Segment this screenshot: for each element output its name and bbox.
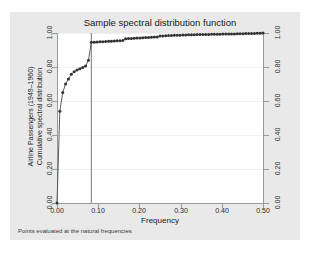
data-point-marker [56,202,59,205]
data-point-marker [96,41,99,44]
data-point-marker [204,33,207,36]
data-point-marker [253,32,256,35]
data-point-marker [161,34,164,37]
data-point-marker [110,40,113,43]
data-point-marker [104,40,107,43]
data-point-marker [58,110,61,113]
data-point-marker [207,33,210,36]
data-point-marker [107,40,110,43]
data-point-marker [241,32,244,35]
y-axis-title-line2: Cumulative spectral distribution [35,32,44,202]
data-point-marker [167,34,170,37]
data-point-marker [61,91,64,94]
data-point-marker [233,32,236,35]
data-point-marker [156,35,159,38]
data-point-marker [141,36,144,39]
data-point-marker [239,32,242,35]
data-point-marker [101,40,104,43]
data-point-marker [187,33,190,36]
data-point-marker [150,36,153,39]
data-point-marker [230,32,233,35]
data-point-marker [170,34,173,37]
data-point-marker [64,83,67,86]
data-point-marker [259,32,262,35]
data-point-marker [250,32,253,35]
data-point-marker [210,33,213,36]
data-point-marker [78,67,81,70]
data-point-marker [164,34,167,37]
series-cumulative-spectral-distribution [56,32,265,205]
data-point-marker [173,34,176,37]
data-point-marker [256,32,259,35]
data-point-marker [224,33,227,36]
data-point-marker [93,41,96,44]
data-point-marker [236,32,239,35]
data-point-marker [247,32,250,35]
data-point-marker [124,37,127,40]
data-point-marker [201,33,204,36]
data-point-marker [138,36,141,39]
data-point-marker [136,37,139,40]
data-point-marker [147,36,150,39]
data-point-marker [199,33,202,36]
x-axis-title: Frequency [57,216,263,225]
data-point-marker [70,73,73,76]
y-axis-title: Airline Passengers (1949–1960) Cumulativ… [27,32,44,202]
data-point-marker [67,77,70,80]
data-point-marker [87,59,90,62]
chart-note: Points evaluated at the natural frequenc… [18,228,132,234]
data-point-marker [184,33,187,36]
data-point-marker [118,39,121,42]
data-point-marker [176,34,179,37]
data-point-marker [196,33,199,36]
data-point-marker [130,37,133,40]
data-point-marker [133,37,136,40]
data-point-marker [221,33,224,36]
data-point-marker [76,69,79,72]
data-point-marker [219,33,222,36]
data-point-marker [193,33,196,36]
data-point-marker [121,39,124,42]
data-point-marker [153,36,156,39]
data-point-marker [98,40,101,43]
chart-page: 0.000.000.200.200.400.400.600.600.800.80… [0,0,314,256]
data-point-marker [84,64,87,67]
data-point-marker [81,66,84,69]
data-point-marker [213,33,216,36]
y-axis-title-line1: Airline Passengers (1949–1960) [27,32,36,202]
data-point-marker [73,70,76,73]
data-point-marker [244,32,247,35]
data-point-marker [216,33,219,36]
data-point-marker [116,39,119,42]
data-point-marker [127,37,130,40]
data-point-marker [181,34,184,37]
data-point-marker [90,41,93,44]
data-point-marker [179,34,182,37]
data-point-marker [262,32,265,35]
series-line [57,33,263,203]
data-point-marker [113,39,116,42]
data-point-marker [144,36,147,39]
chart-title: Sample spectral distribution function [57,17,263,28]
data-point-marker [159,35,162,38]
data-point-marker [190,33,193,36]
data-point-marker [227,33,230,36]
